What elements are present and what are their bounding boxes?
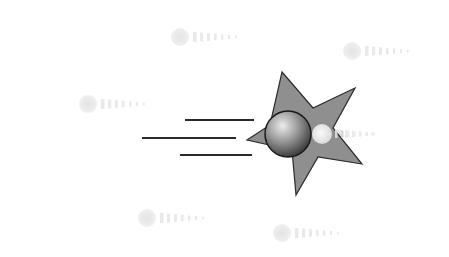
ghost-trail-dash: [295, 228, 299, 238]
ghost-trail-dash: [143, 103, 145, 106]
glow-highlight: [312, 124, 332, 144]
ghost-ball-icon: [171, 28, 189, 46]
ghost-trail-dash: [136, 102, 138, 106]
ghost-trail-dash: [200, 33, 203, 42]
ghost-ball-icon: [273, 224, 291, 242]
ghost-trail-dash: [115, 100, 118, 108]
ghost-trail-dash: [174, 214, 177, 222]
ghost-trail-dash: [228, 35, 230, 39]
glow-trail-dash: [371, 133, 374, 136]
ghost-trail-dash: [302, 229, 305, 238]
ghost-trail-dash: [330, 231, 332, 235]
ghost-trail-dash: [393, 48, 395, 53]
ghost-trail-dash: [188, 215, 190, 220]
ghost-ball-icon: [343, 42, 361, 60]
ghost-trail-dash: [101, 99, 105, 109]
ghost-trail-dash: [365, 46, 369, 56]
ghost-trail-dash: [400, 49, 402, 53]
ghost-ball-icon: [79, 95, 97, 113]
ghost-trail-dash: [337, 232, 339, 235]
ghost-trail-dash: [372, 47, 375, 56]
ghost-trail-dash: [386, 48, 389, 54]
shooting-star-illustration: [0, 0, 449, 257]
ghost-trail-dash: [122, 101, 125, 107]
ball-icon: [265, 111, 311, 157]
ghost-trail-dash: [181, 215, 184, 221]
ghost-trail-dash: [195, 216, 197, 220]
ghost-trail-dash: [129, 101, 131, 106]
ghost-trail-dash: [309, 229, 312, 237]
ghost-trail-dash: [214, 34, 217, 40]
ghost-trail-dash: [193, 32, 197, 42]
glow-trail-dash: [347, 131, 350, 137]
glow-trail-dash: [365, 132, 368, 136]
ghost-trail-dash: [221, 34, 223, 39]
ghost-trail-dash: [323, 230, 325, 235]
ghost-trail-dash: [160, 213, 164, 223]
ghost-trail-dash: [235, 36, 237, 39]
ghost-trail-dash: [207, 33, 210, 41]
ghost-ball-icon: [138, 209, 156, 227]
glow-trail-dash: [353, 131, 356, 136]
ghost-trail-dash: [167, 214, 170, 223]
glow-trail-dash: [359, 132, 362, 136]
ghost-trail-dash: [316, 230, 319, 236]
glow-trail-dash: [335, 130, 338, 138]
ghost-trail-dash: [108, 100, 111, 109]
glow-trail-dash: [341, 130, 344, 137]
ghost-trail-dash: [202, 217, 204, 220]
speed-lines: [142, 120, 254, 155]
ghost-trail-dash: [407, 50, 409, 53]
ghost-trail-dash: [379, 47, 382, 55]
